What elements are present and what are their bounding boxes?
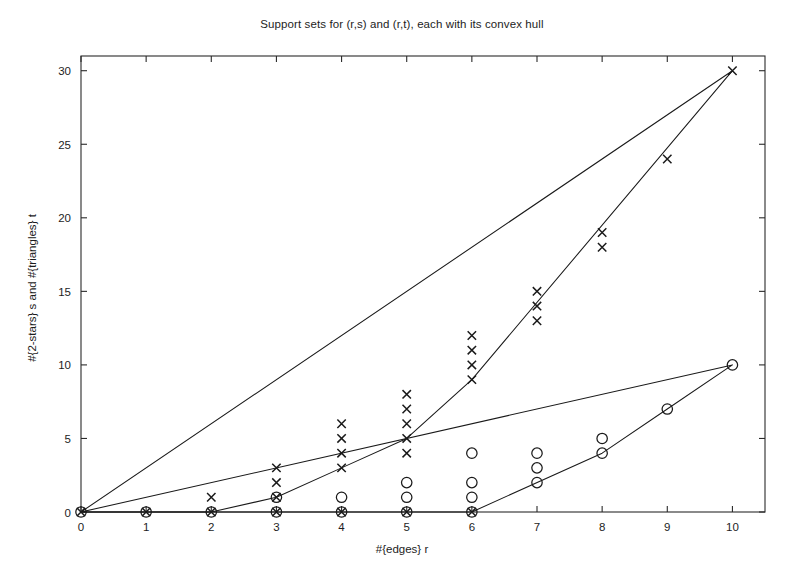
marker-cross xyxy=(468,346,476,354)
y-tick-label: 25 xyxy=(58,139,71,151)
plot-area: 012345678910051015202530 xyxy=(0,0,804,576)
marker-cross xyxy=(272,464,280,472)
marker-cross xyxy=(207,493,215,501)
y-tick-label: 15 xyxy=(58,286,71,298)
x-tick-label: 2 xyxy=(208,521,214,533)
marker-cross xyxy=(533,317,541,325)
marker-circle xyxy=(467,448,477,458)
marker-cross xyxy=(663,155,671,163)
marker-cross xyxy=(337,449,345,457)
y-tick-label: 5 xyxy=(65,433,71,445)
x-tick-label: 4 xyxy=(338,521,345,533)
y-tick-label: 10 xyxy=(58,359,71,371)
marker-circle xyxy=(467,477,477,487)
x-tick-label: 1 xyxy=(143,521,149,533)
x-tick-label: 6 xyxy=(469,521,475,533)
marker-cross xyxy=(403,390,411,398)
x-tick-label: 9 xyxy=(664,521,670,533)
marker-cross xyxy=(468,375,476,383)
marker-cross xyxy=(337,464,345,472)
marker-cross xyxy=(272,493,280,501)
marker-circle xyxy=(402,492,412,502)
axes xyxy=(81,56,765,512)
marker-cross xyxy=(403,405,411,413)
x-tick-label: 5 xyxy=(404,521,410,533)
figure: Support sets for (r,s) and (r,t), each w… xyxy=(0,0,804,576)
convex-hull-path xyxy=(81,71,732,512)
y-tick-label: 20 xyxy=(58,212,71,224)
marker-circle xyxy=(467,492,477,502)
x-tick-label: 7 xyxy=(534,521,540,533)
marker-circle xyxy=(532,448,542,458)
marker-cross xyxy=(468,331,476,339)
marker-cross xyxy=(337,420,345,428)
marker-cross xyxy=(468,361,476,369)
x-tick-label: 3 xyxy=(273,521,279,533)
marker-cross xyxy=(337,434,345,442)
marker-cross xyxy=(728,67,736,75)
y-tick-label: 30 xyxy=(58,65,71,77)
x-tick-label: 10 xyxy=(726,521,739,533)
marker-cross xyxy=(403,420,411,428)
x-tick-label: 0 xyxy=(78,521,84,533)
marker-cross xyxy=(598,243,606,251)
marker-circle xyxy=(336,492,346,502)
convex-hull-lines xyxy=(81,71,732,512)
marker-cross xyxy=(403,449,411,457)
marker-circle xyxy=(532,463,542,473)
marker-cross xyxy=(403,434,411,442)
marker-cross xyxy=(272,478,280,486)
axes-frame xyxy=(81,56,765,512)
marker-circle xyxy=(402,477,412,487)
marker-cross xyxy=(598,228,606,236)
marker-cross xyxy=(533,287,541,295)
y-tick-label: 0 xyxy=(65,507,71,519)
marker-circle xyxy=(597,433,607,443)
x-tick-label: 8 xyxy=(599,521,605,533)
